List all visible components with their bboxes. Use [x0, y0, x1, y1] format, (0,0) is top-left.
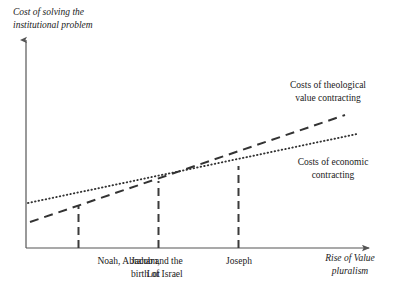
- x-tick-label-joseph: Joseph: [198, 255, 280, 268]
- y-axis-title: Cost of solving the institutional proble…: [13, 6, 93, 31]
- chart-figure: Cost of solving the institutional proble…: [0, 0, 397, 295]
- series-label-theological-value-contracting: Costs of theological value contracting: [265, 79, 391, 104]
- x-axis-title: Rise of Value pluralism: [307, 252, 393, 277]
- chart-plot-area: [0, 0, 397, 295]
- series-label-economic-contracting: Costs of economic contracting: [276, 156, 390, 181]
